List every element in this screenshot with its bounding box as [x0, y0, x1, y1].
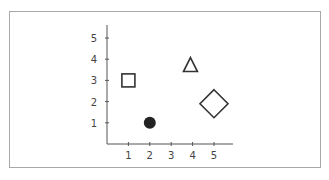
x-tick-label: 2: [147, 150, 153, 161]
diamond-marker: [200, 90, 228, 118]
x-tick-label: 5: [211, 150, 217, 161]
markers: [122, 58, 228, 129]
y-tick-label: 5: [91, 33, 97, 44]
scatter-plot: 12345 12345: [0, 0, 329, 180]
triangle-marker: [183, 58, 197, 72]
y-tick-label: 3: [91, 75, 97, 86]
y-ticks: 12345: [91, 33, 109, 129]
y-tick-label: 1: [91, 118, 97, 129]
x-tick-label: 3: [168, 150, 174, 161]
square-marker: [122, 74, 135, 87]
x-ticks: 12345: [125, 142, 217, 161]
y-tick-label: 2: [91, 97, 97, 108]
x-tick-label: 4: [189, 150, 195, 161]
circle-marker: [144, 117, 156, 129]
x-tick-label: 1: [125, 150, 131, 161]
y-tick-label: 4: [91, 54, 97, 65]
